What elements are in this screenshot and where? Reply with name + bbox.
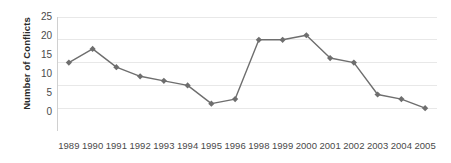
x-tick-label: 1990 [81,139,105,153]
x-tick-label: 1996 [223,139,247,153]
y-tick-label: 20 [30,31,52,41]
x-tick-label: 2003 [366,139,390,153]
data-point [256,37,262,43]
y-axis-tick-labels: 25 20 15 10 5 0 [30,0,52,163]
data-point [161,78,167,84]
x-tick-label: 1998 [247,139,271,153]
y-tick-label: 0 [30,107,52,117]
x-tick-label: 1999 [271,139,295,153]
x-tick-label: 2000 [295,139,319,153]
data-point [280,37,286,43]
data-point [398,96,404,102]
x-tick-label: 2001 [318,139,342,153]
x-tick-label: 2005 [413,139,437,153]
plot-area [57,17,437,131]
plot-svg [57,17,437,131]
series-line [69,35,425,108]
x-tick-label: 1991 [105,139,129,153]
data-point [232,96,238,102]
line-chart: Number of Conflicts 25 20 15 10 5 0 1989… [0,0,451,163]
x-tick-label: 1992 [128,139,152,153]
x-axis-tick-labels: 1989 1990 1991 1992 1993 1994 1995 1996 … [57,139,437,153]
y-tick-label: 5 [30,88,52,98]
data-point [422,105,428,111]
data-point [137,73,143,79]
x-tick-label: 1989 [57,139,81,153]
axis-lines [57,17,58,131]
gridlines [57,17,437,131]
series-markers [66,32,428,111]
x-tick-label: 2002 [342,139,366,153]
y-tick-label: 15 [30,50,52,60]
data-point [66,60,72,66]
y-tick-label: 25 [30,12,52,22]
x-tick-label: 1994 [176,139,200,153]
y-tick-label: 10 [30,69,52,79]
x-tick-label: 1993 [152,139,176,153]
x-tick-label: 1995 [200,139,224,153]
x-tick-label: 2004 [390,139,414,153]
